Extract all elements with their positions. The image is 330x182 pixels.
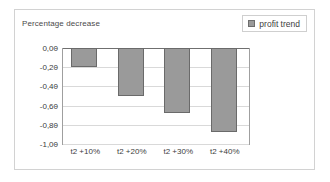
chart-legend: profit trend [242,15,307,32]
bar-1 [71,48,97,67]
legend-swatch-icon [248,20,255,27]
x-axis: t2 +10%t2 +20%t2 +30%t2 +40% [62,147,248,161]
x-axis-tick-label: t2 +10% [70,147,100,156]
y-axis: 0,00-0,20-0,40-0,60-0,80-1,00 [15,48,58,144]
x-axis-tick-label: t2 +40% [210,147,240,156]
bar-4 [211,48,237,132]
legend-label-profit-trend: profit trend [259,19,300,29]
y-axis-tick [55,144,58,145]
y-axis-tick [55,106,58,107]
plot-area [62,48,250,145]
x-axis-tick-label: t2 +30% [163,147,193,156]
y-axis-tick [55,48,58,49]
bar-3 [164,48,190,113]
chart-title: Percentage decrease [22,19,100,28]
chart-figure: Percentage decrease profit trend 0,00-0,… [14,9,315,170]
y-axis-tick [55,67,58,68]
y-axis-tick [55,86,58,87]
bar-2 [118,48,144,96]
gridline [63,144,249,145]
y-axis-tick [55,125,58,126]
x-axis-tick-label: t2 +20% [117,147,147,156]
